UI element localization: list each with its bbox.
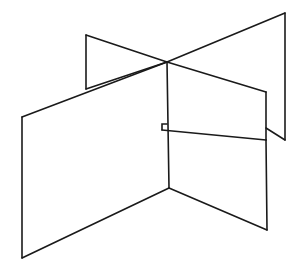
line-drawing-svg — [0, 0, 303, 279]
figure-canvas — [0, 0, 303, 279]
edge-front-right-vertical — [266, 140, 267, 230]
